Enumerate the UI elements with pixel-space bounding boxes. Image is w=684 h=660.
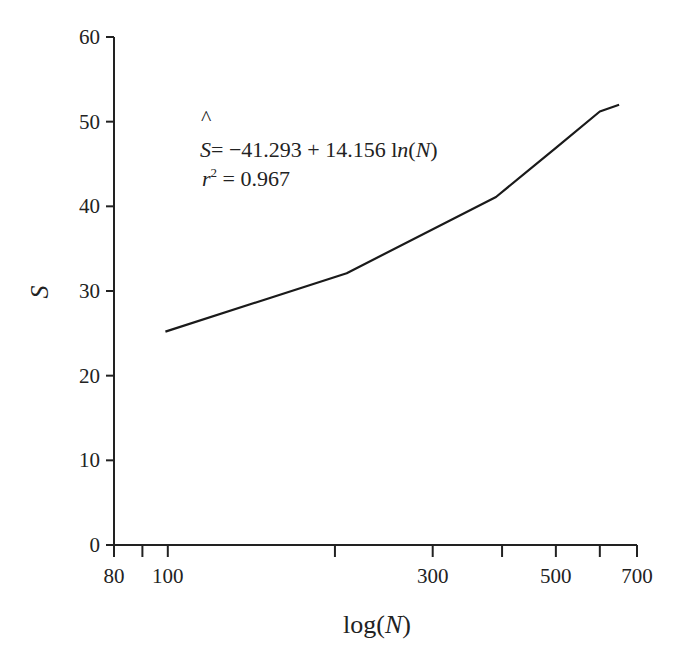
- x-tick-label: 300: [417, 564, 449, 588]
- equation-paren-close: ): [430, 137, 437, 162]
- x-tick-label: 80: [104, 564, 125, 588]
- chart: 0102030405060 80100300500700 S log(N) ^ …: [0, 0, 684, 660]
- r-squared-text: r2 = 0.967: [202, 165, 290, 191]
- r-value: = 0.967: [217, 166, 290, 191]
- x-axis-title: log(N): [343, 610, 411, 639]
- y-tick-label: 30: [79, 279, 100, 303]
- x-axis-title-prefix: log(: [343, 610, 385, 639]
- equation-var: N: [415, 137, 432, 162]
- x-axis-title-var: N: [384, 610, 404, 639]
- x-tick-label: 100: [152, 564, 184, 588]
- equation-lhs: S: [200, 137, 211, 162]
- equation-rhs-italic: n: [397, 137, 408, 162]
- y-tick-label: 40: [79, 194, 100, 218]
- equation-paren-open: (: [408, 137, 415, 162]
- y-tick-label: 60: [79, 25, 100, 49]
- equation-rhs-prefix: = −41.293 + 14.156 l: [211, 137, 397, 162]
- x-axis-title-suffix: ): [402, 610, 411, 639]
- y-tick-label: 10: [79, 448, 100, 472]
- x-ticks: 80100300500700: [104, 545, 653, 588]
- y-tick-label: 50: [79, 110, 100, 134]
- x-tick-label: 700: [621, 564, 653, 588]
- y-axis-title: S: [25, 286, 54, 299]
- y-tick-label: 0: [90, 533, 101, 557]
- x-tick-label: 500: [540, 564, 572, 588]
- equation-hat: ^: [201, 105, 212, 130]
- y-tick-label: 20: [79, 364, 100, 388]
- axes: [106, 37, 637, 555]
- equation-text: S= −41.293 + 14.156 ln(N): [200, 137, 438, 162]
- regression-annotation: ^ S= −41.293 + 14.156 ln(N) r2 = 0.967: [200, 105, 438, 191]
- y-ticks: 0102030405060: [79, 25, 114, 557]
